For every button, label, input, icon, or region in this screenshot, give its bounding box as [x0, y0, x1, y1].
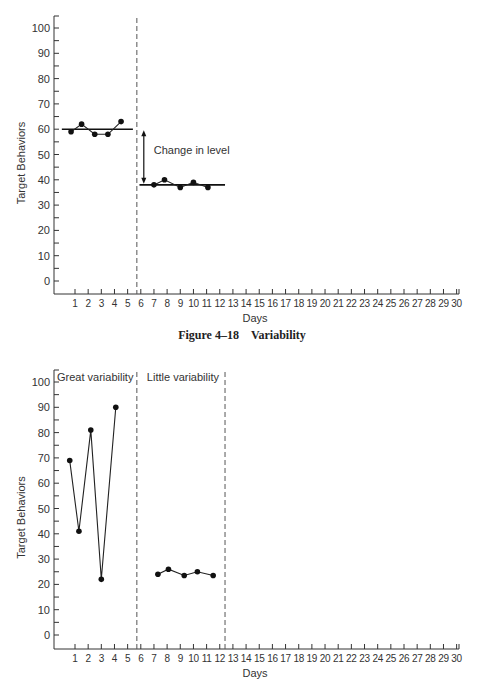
x-axis-title: Days: [242, 667, 268, 679]
y-tick-label: 90: [38, 401, 50, 413]
y-tick-label: 70: [38, 452, 50, 464]
data-point: [210, 573, 216, 579]
x-tick-label: 25: [386, 653, 397, 664]
data-point: [67, 458, 73, 464]
phase-label: Little variability: [147, 371, 220, 383]
y-tick-label: 0: [44, 629, 50, 641]
axes: [54, 370, 459, 649]
x-tick-label: 7: [151, 653, 157, 664]
y-tick-label: 100: [32, 376, 50, 388]
x-tick-label: 29: [438, 653, 449, 664]
data-point: [113, 405, 119, 411]
data-point: [76, 528, 82, 534]
x-tick-label: 13: [228, 653, 239, 664]
y-tick-label: 50: [38, 503, 50, 515]
x-tick-label: 2: [86, 653, 92, 664]
x-tick-label: 4: [112, 653, 118, 664]
x-tick-label: 10: [188, 653, 199, 664]
y-tick-label: 60: [38, 477, 50, 489]
x-tick-label: 20: [320, 653, 331, 664]
x-tick-label: 23: [359, 653, 370, 664]
phase-label: Great variability: [57, 371, 134, 383]
x-tick-label: 19: [307, 653, 318, 664]
data-point: [155, 571, 161, 577]
y-axis-title: Target Behaviors: [15, 476, 27, 559]
y-tick-label: 10: [38, 604, 50, 616]
x-tick-label: 5: [125, 653, 131, 664]
x-tick-label: 11: [202, 653, 213, 664]
x-tick-label: 24: [372, 653, 383, 664]
x-tick-label: 6: [138, 653, 144, 664]
y-tick-label: 80: [38, 427, 50, 439]
x-tick-label: 8: [164, 653, 170, 664]
data-line: [70, 407, 116, 579]
x-tick-label: 27: [412, 653, 423, 664]
y-tick-label: 30: [38, 553, 50, 565]
x-tick-label: 28: [425, 653, 436, 664]
x-tick-label: 14: [241, 653, 252, 664]
data-point: [99, 577, 105, 583]
x-tick-label: 21: [333, 653, 344, 664]
y-tick-label: 20: [38, 578, 50, 590]
x-tick-label: 22: [346, 653, 357, 664]
x-tick-label: 9: [178, 653, 184, 664]
variability-chart: 0102030405060708090100123456789101112131…: [0, 0, 484, 684]
x-tick-label: 26: [399, 653, 410, 664]
x-tick-label: 3: [99, 653, 105, 664]
y-tick-label: 40: [38, 528, 50, 540]
data-point: [166, 566, 172, 572]
x-tick-label: 15: [254, 653, 265, 664]
x-tick-label: 12: [214, 653, 225, 664]
x-tick-label: 18: [293, 653, 304, 664]
x-tick-label: 16: [267, 653, 278, 664]
x-tick-label: 30: [451, 653, 462, 664]
data-point: [88, 427, 94, 433]
data-point: [181, 573, 187, 579]
x-tick-label: 1: [72, 653, 78, 664]
data-point: [195, 569, 201, 575]
x-tick-label: 17: [280, 653, 291, 664]
